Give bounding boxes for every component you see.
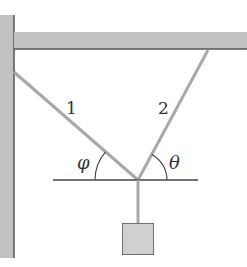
hanging-mass [122, 223, 154, 255]
angle-arc-phi [95, 152, 106, 180]
angle-arc-theta [152, 155, 167, 181]
ceiling-beam [14, 32, 247, 49]
statics-diagram: 1 2 φ θ [0, 0, 247, 267]
left-wall [0, 15, 14, 258]
string-1 [14, 72, 138, 180]
string-2-label: 2 [158, 98, 169, 118]
string-1-label: 1 [66, 98, 77, 118]
angle-phi-label: φ [77, 152, 90, 173]
angle-theta-label: θ [169, 152, 180, 173]
